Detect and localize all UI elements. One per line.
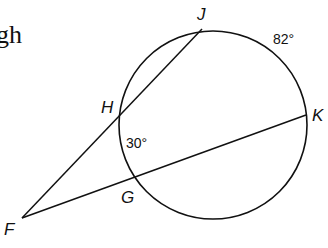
arc-jk-measure: 82° <box>273 31 294 47</box>
label-j: J <box>196 5 206 24</box>
label-h: H <box>101 98 114 117</box>
secant-fk <box>22 115 306 218</box>
label-g: G <box>121 188 134 207</box>
label-f: F <box>4 220 16 239</box>
arc-hg-measure: 30° <box>126 135 147 151</box>
geometry-diagram: J H K G F 82° 30° <box>0 0 328 248</box>
label-k: K <box>312 106 324 125</box>
secant-fj <box>22 29 202 218</box>
